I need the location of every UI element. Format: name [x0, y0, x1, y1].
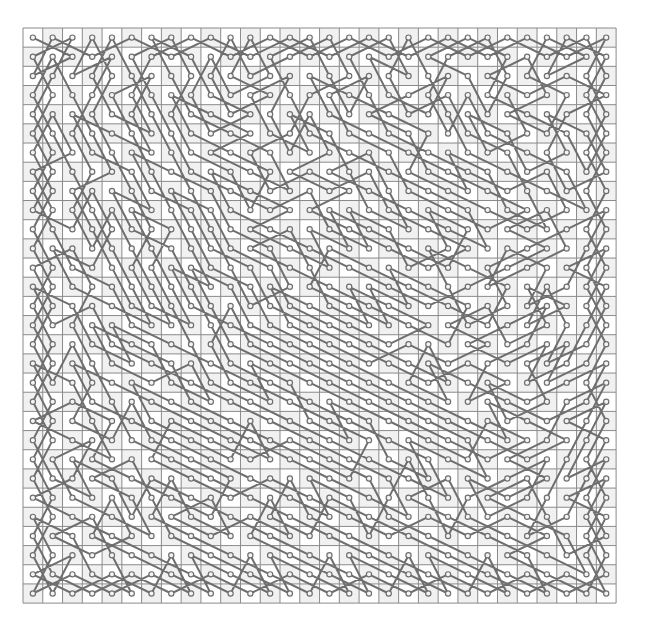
- tour-node: [544, 514, 549, 519]
- tour-node: [347, 131, 352, 136]
- tour-node: [604, 208, 609, 213]
- tour-node: [564, 514, 569, 519]
- tour-node: [208, 572, 213, 577]
- tour-node: [228, 303, 233, 308]
- tour-node: [366, 208, 371, 213]
- tour-node: [30, 418, 35, 423]
- tour-node: [347, 169, 352, 174]
- tour-node: [584, 495, 589, 500]
- tour-node: [505, 35, 510, 40]
- tour-node: [505, 418, 510, 423]
- tour-node: [287, 246, 292, 251]
- tour-node: [485, 112, 490, 117]
- tour-node: [366, 591, 371, 596]
- tour-node: [445, 514, 450, 519]
- tour-node: [90, 323, 95, 328]
- tour-node: [70, 476, 75, 481]
- tour-node: [604, 323, 609, 328]
- tour-node: [30, 112, 35, 117]
- tour-node: [109, 342, 114, 347]
- tour-node: [347, 457, 352, 462]
- tour-node: [386, 495, 391, 500]
- tour-node: [149, 361, 154, 366]
- tour-node: [544, 112, 549, 117]
- tour-node: [307, 112, 312, 117]
- tour-node: [149, 169, 154, 174]
- tour-node: [90, 92, 95, 97]
- tour-node: [248, 303, 253, 308]
- tour-node: [485, 323, 490, 328]
- tour-node: [287, 591, 292, 596]
- tour-node: [406, 54, 411, 59]
- tour-node: [426, 169, 431, 174]
- tour-node: [426, 495, 431, 500]
- tour-node: [109, 514, 114, 519]
- tour-node: [505, 572, 510, 577]
- tour-node: [604, 73, 609, 78]
- tour-node: [544, 533, 549, 538]
- tour-node: [465, 188, 470, 193]
- tour-node: [445, 246, 450, 251]
- tour-node: [30, 131, 35, 136]
- tour-node: [426, 572, 431, 577]
- tour-node: [228, 265, 233, 270]
- tour-node: [268, 265, 273, 270]
- tour-node: [208, 150, 213, 155]
- tour-node: [228, 35, 233, 40]
- tour-node: [485, 495, 490, 500]
- tour-node: [525, 591, 530, 596]
- tour-node: [465, 131, 470, 136]
- tour-node: [149, 35, 154, 40]
- tour-node: [307, 438, 312, 443]
- tour-node: [287, 265, 292, 270]
- tour-node: [50, 495, 55, 500]
- tour-node: [50, 284, 55, 289]
- tour-node: [50, 92, 55, 97]
- tour-node: [307, 380, 312, 385]
- tour-node: [327, 323, 332, 328]
- tour-node: [248, 438, 253, 443]
- tour-node: [208, 380, 213, 385]
- tour-node: [544, 380, 549, 385]
- tour-node: [208, 188, 213, 193]
- tour-node: [228, 169, 233, 174]
- tour-node: [525, 92, 530, 97]
- tour-node: [347, 514, 352, 519]
- tour-node: [366, 399, 371, 404]
- tour-node: [188, 246, 193, 251]
- tour-node: [268, 131, 273, 136]
- tour-node: [327, 591, 332, 596]
- tour-node: [386, 303, 391, 308]
- tour-node: [445, 399, 450, 404]
- tour-node: [149, 208, 154, 213]
- tour-node: [544, 323, 549, 328]
- tour-node: [366, 54, 371, 59]
- tour-node: [169, 533, 174, 538]
- tour-node: [386, 131, 391, 136]
- tour-node: [149, 323, 154, 328]
- tour-node: [70, 150, 75, 155]
- tour-node: [485, 457, 490, 462]
- tour-node: [386, 188, 391, 193]
- tour-node: [268, 380, 273, 385]
- tour-node: [307, 169, 312, 174]
- tour-node: [90, 150, 95, 155]
- tour-node: [564, 533, 569, 538]
- tour-node: [228, 323, 233, 328]
- tour-node: [149, 112, 154, 117]
- tour-node: [90, 591, 95, 596]
- tour-node: [604, 591, 609, 596]
- tour-node: [90, 553, 95, 558]
- tour-node: [149, 572, 154, 577]
- tour-node: [307, 150, 312, 155]
- tour-node: [327, 35, 332, 40]
- tour-node: [248, 73, 253, 78]
- tour-node: [327, 476, 332, 481]
- tour-node: [208, 227, 213, 232]
- tour-node: [505, 284, 510, 289]
- tour-node: [445, 284, 450, 289]
- tour-node: [208, 361, 213, 366]
- tour-node: [149, 246, 154, 251]
- tour-node: [248, 514, 253, 519]
- tour-node: [564, 476, 569, 481]
